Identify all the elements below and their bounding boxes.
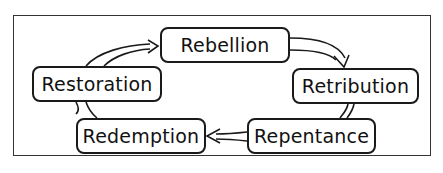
node-restoration: Restoration	[32, 66, 162, 102]
node-label: Retribution	[302, 75, 409, 97]
node-repentance: Repentance	[247, 118, 376, 154]
node-rebellion: Rebellion	[160, 27, 290, 63]
arrow-rebellion-to-retribution	[290, 38, 349, 67]
node-label: Restoration	[41, 73, 152, 95]
node-label: Rebellion	[180, 34, 269, 56]
arrow-redemption-to-restoration	[76, 102, 97, 118]
node-label: Repentance	[254, 125, 369, 147]
arrow-restoration-to-rebellion	[86, 40, 158, 66]
node-label: Redemption	[83, 125, 200, 147]
arrow-retribution-to-repentance	[340, 104, 354, 118]
node-retribution: Retribution	[292, 68, 419, 104]
arrow-repentance-to-redemption	[207, 129, 247, 143]
node-redemption: Redemption	[76, 118, 206, 154]
